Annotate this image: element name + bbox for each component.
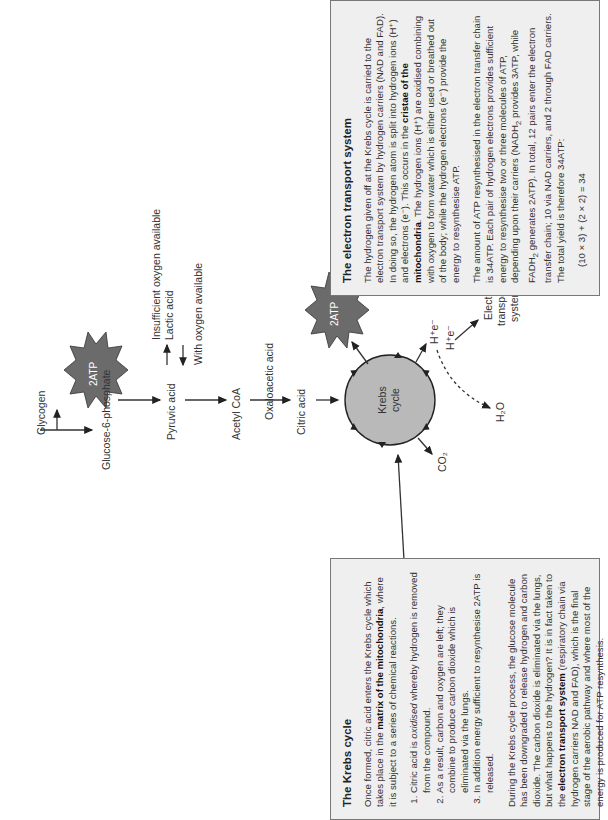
- ets-box-equation: (10 × 3) + (2 × 2) = 34: [576, 13, 589, 283]
- krebs-cycle-info-box: The Krebs cycle Once formed, citric acid…: [330, 558, 600, 820]
- atp-label-2: 2ATP: [329, 302, 340, 326]
- label-with-oxygen: With oxygen available: [192, 263, 204, 365]
- label-oxaloacetic-acid: Oxaloacetic acid: [263, 343, 275, 420]
- label-insufficient-oxygen: Insufficient oxygen available: [150, 209, 162, 340]
- label-pyruvic-acid: Pyruvic acid: [165, 383, 177, 440]
- arrow-krebs-to-co2: [418, 438, 432, 454]
- krebs-box-steps: Citric acid is oxidised whereby hydrogen…: [408, 571, 496, 807]
- label-glycogen: Glycogen: [35, 391, 47, 435]
- atp-label-1: 2ATP: [88, 362, 99, 386]
- arrow-krebs-to-hydrogen: [416, 344, 426, 362]
- ets-box-para1: The hydrogen given off at the Krebs cycl…: [362, 13, 463, 283]
- krebs-step-1: Citric acid is oxidised whereby hydrogen…: [408, 571, 433, 793]
- krebs-circle-label-line1: Krebs: [376, 380, 388, 420]
- label-glucose-6-phosphate: Glucose-6-phosphate: [100, 370, 112, 470]
- krebs-circle-label-line2: cycle: [389, 380, 401, 420]
- ets-box-title: The electron transport system: [341, 13, 354, 283]
- label-water: H₂O: [494, 402, 506, 422]
- label-acetyl-coa: Acetyl CoA: [230, 388, 242, 440]
- label-co2: CO₂: [436, 452, 448, 472]
- label-h-e-1: H⁺e⁻: [428, 319, 440, 344]
- label-lactic-acid: Lactic acid: [163, 290, 175, 340]
- krebs-step-3: In addition energy sufficient to resynth…: [471, 571, 496, 793]
- electron-transport-info-box: The electron transport system The hydrog…: [330, 0, 600, 296]
- arrow-krebs-to-atp-2: [352, 342, 368, 364]
- arrow-hydrogen-to-ets: [455, 320, 478, 340]
- krebs-box-title: The Krebs cycle: [341, 571, 354, 807]
- krebs-box-para2: During the Krebs cycle process, the gluc…: [506, 571, 607, 807]
- krebs-step-2: As a result, carbon and oxygen are left;…: [434, 571, 472, 793]
- dotted-arrow-to-water: [437, 350, 490, 408]
- ets-box-para2: The amount of ATP resynthesised in the e…: [471, 13, 567, 283]
- label-h-e-2: H⁺e⁻: [444, 325, 456, 350]
- label-citric-acid: Citric acid: [295, 389, 307, 435]
- krebs-cycle-diagram-page: Glycogen Glucose-6-phosphate Pyruvic aci…: [0, 0, 608, 820]
- krebs-box-intro: Once formed, citric acid enters the Kreb…: [362, 571, 400, 807]
